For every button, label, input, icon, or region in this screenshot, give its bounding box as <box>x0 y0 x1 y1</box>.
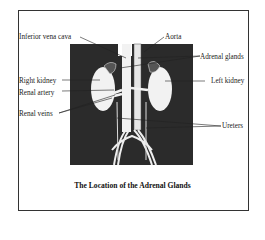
label-renal-artery: Renal artery <box>19 89 55 97</box>
label-inferior-vena-cava: Inferior vena cava <box>19 33 72 41</box>
left-kidney-shape <box>148 67 172 111</box>
label-adrenal-glands: Adrenal glands <box>200 53 244 61</box>
label-left-kidney: Left kidney <box>211 77 245 85</box>
label-right-kidney: Right kidney <box>19 77 57 85</box>
label-aorta: Aorta <box>165 33 182 41</box>
aorta-shape <box>134 44 141 130</box>
label-ureters: Ureters <box>222 122 243 130</box>
label-renal-veins: Renal veins <box>19 110 53 118</box>
figure-caption: The Location of the Adrenal Glands <box>0 181 265 190</box>
